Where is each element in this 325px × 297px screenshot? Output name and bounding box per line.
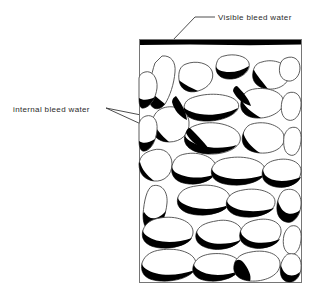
label-visible-bleed-water: Visible bleed water <box>218 13 292 23</box>
aggregate-particle <box>142 217 193 248</box>
aggregate-particle <box>172 153 216 184</box>
aggregate-particle <box>139 149 172 181</box>
label-internal-bleed-water: internal bleed water <box>13 105 90 115</box>
figure-canvas: Visible bleed water internal bleed water <box>0 0 325 297</box>
bleed-water-diagram <box>0 0 325 297</box>
leader-line-visible <box>172 17 215 41</box>
aggregate-particle <box>242 123 284 153</box>
aggregate-particle <box>280 254 301 282</box>
aggregate-particle <box>283 226 301 255</box>
aggregate-particle <box>211 157 265 185</box>
aggregate-particle <box>279 57 300 81</box>
aggregate-particle <box>262 159 301 187</box>
aggregate-particle <box>240 219 281 248</box>
aggregate-particle <box>177 185 230 215</box>
aggregate-particle <box>142 249 196 281</box>
visible-bleed-water-layer <box>140 40 301 45</box>
